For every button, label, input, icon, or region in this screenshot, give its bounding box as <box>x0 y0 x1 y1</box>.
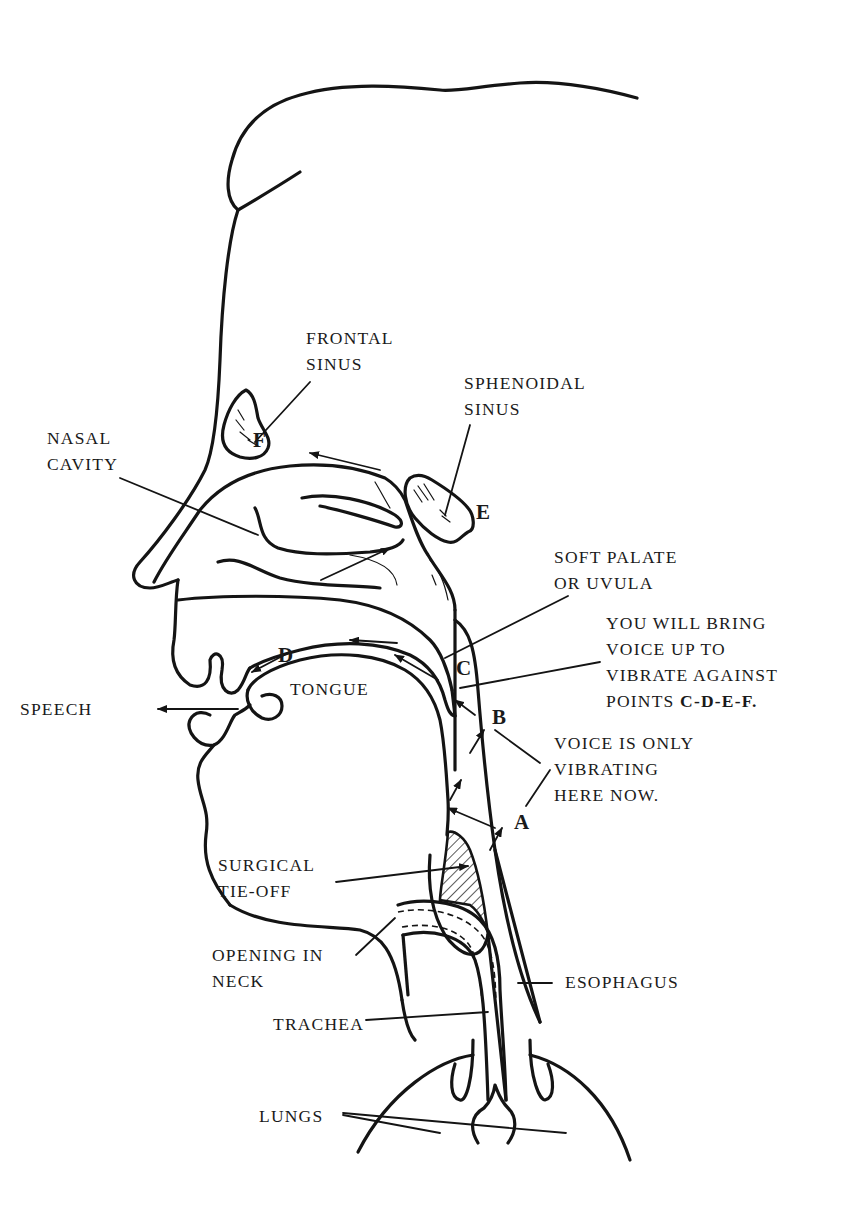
point-d: D <box>278 643 293 667</box>
label-line: OR UVULA <box>554 573 654 593</box>
lungs-shape <box>358 1040 630 1160</box>
label-line: OPENING IN <box>212 945 324 965</box>
label-speech: SPEECH <box>20 699 92 719</box>
label-line: NASAL <box>47 428 111 448</box>
label-voice-now: VOICE IS ONLY VIBRATING HERE NOW. <box>554 733 694 805</box>
point-e: E <box>476 500 490 524</box>
point-c: C <box>456 656 471 680</box>
label-line: HERE NOW. <box>554 785 659 805</box>
points-emphasis: C-D-E-F. <box>680 691 758 711</box>
label-esophagus: ESOPHAGUS <box>565 972 679 992</box>
point-a: A <box>514 810 530 834</box>
anatomy-diagram: FRONTAL SINUS SPHENOIDAL SINUS NASAL CAV… <box>0 0 864 1230</box>
label-instruction: YOU WILL BRING VOICE UP TO VIBRATE AGAIN… <box>606 613 778 711</box>
label-surgical-tieoff: SURGICAL TIE-OFF <box>218 855 315 901</box>
label-line: SOFT PALATE <box>554 547 678 567</box>
label-sphenoidal-sinus: SPHENOIDAL SINUS <box>464 373 586 419</box>
label-trachea: TRACHEA <box>273 1014 364 1034</box>
label-line: SPHENOIDAL <box>464 373 586 393</box>
label-soft-palate: SOFT PALATE OR UVULA <box>554 547 678 593</box>
label-line: VIBRATING <box>554 759 659 779</box>
label-line: FRONTAL <box>306 328 394 348</box>
label-line: YOU WILL BRING <box>606 613 767 633</box>
point-b: B <box>492 705 506 729</box>
label-line: POINTS C-D-E-F. <box>606 691 758 711</box>
label-line: VOICE IS ONLY <box>554 733 694 753</box>
label-line-text: POINTS <box>606 691 680 711</box>
airflow-arrows <box>158 453 502 850</box>
label-line: VOICE UP TO <box>606 639 726 659</box>
label-line: CAVITY <box>47 454 118 474</box>
label-line: SINUS <box>306 354 363 374</box>
point-f: F <box>253 428 266 452</box>
label-tongue: TONGUE <box>290 679 369 699</box>
label-opening-in-neck: OPENING IN NECK <box>212 945 324 991</box>
label-nasal-cavity: NASAL CAVITY <box>47 428 118 474</box>
label-line: VIBRATE AGAINST <box>606 665 778 685</box>
label-line: SURGICAL <box>218 855 315 875</box>
label-line: NECK <box>212 971 264 991</box>
label-line: TIE-OFF <box>218 881 292 901</box>
label-lungs: LUNGS <box>259 1106 323 1126</box>
label-frontal-sinus: FRONTAL SINUS <box>306 328 394 374</box>
label-line: SINUS <box>464 399 521 419</box>
